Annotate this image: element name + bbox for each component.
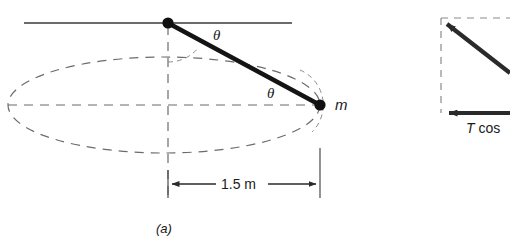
force-symbol: T bbox=[466, 120, 475, 136]
physics-figure: θ θ m 1.5 m (a) Tcos bbox=[0, 0, 510, 252]
angle-arc-pivot bbox=[168, 47, 199, 62]
mass-label: m bbox=[335, 97, 348, 112]
pendulum-string bbox=[168, 23, 320, 105]
force-function-text: cos bbox=[479, 120, 501, 136]
figure-caption: (a) bbox=[156, 222, 172, 235]
pivot-point bbox=[162, 17, 173, 28]
radius-dimension-label: 1.5 m bbox=[221, 177, 256, 191]
figure-canvas bbox=[0, 0, 510, 252]
tension-vector-arrow bbox=[447, 24, 510, 73]
mass-point bbox=[314, 99, 325, 110]
angle-label-upper: θ bbox=[213, 28, 220, 43]
circular-orbit-ellipse bbox=[8, 57, 320, 153]
angle-label-lower: θ bbox=[267, 86, 274, 101]
force-component-label: Tcos bbox=[466, 121, 500, 135]
